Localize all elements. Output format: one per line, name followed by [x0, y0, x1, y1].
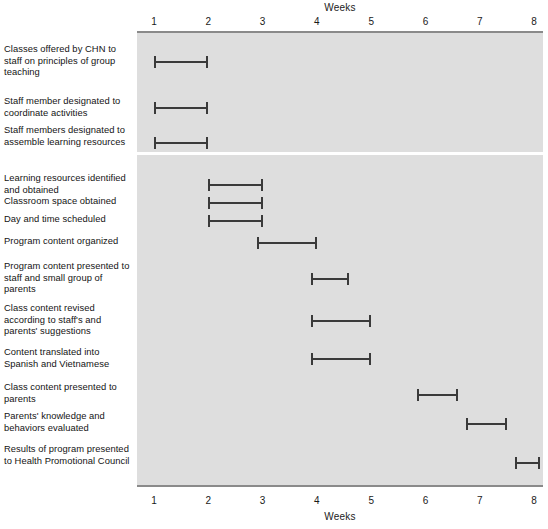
x-tick-label-7: 7: [470, 15, 490, 29]
gantt-bar-end-cap: [261, 179, 263, 191]
gantt-bar: [257, 242, 317, 244]
task-label: Program content presented to staff and s…: [4, 260, 135, 295]
gantt-bar-start-cap: [311, 315, 313, 327]
gantt-bar-start-cap: [515, 457, 517, 469]
gantt-bar: [311, 358, 371, 360]
x-tick-label-3: 3: [253, 494, 273, 508]
gantt-bar: [208, 184, 262, 186]
x-tick-label-1: 1: [144, 494, 164, 508]
top-axis-title: Weeks: [137, 2, 543, 13]
task-label: Staff members designated to assemble lea…: [4, 124, 135, 147]
x-tick-label-6: 6: [416, 494, 436, 508]
gantt-bar-end-cap: [206, 137, 208, 149]
gantt-bar-end-cap: [369, 353, 371, 365]
gantt-bar-start-cap: [154, 102, 156, 114]
gantt-bar: [208, 220, 262, 222]
gantt-bar-start-cap: [417, 389, 419, 401]
task-label: Parents' knowledge and behaviors evaluat…: [4, 410, 135, 433]
gantt-bar: [515, 462, 539, 464]
gantt-bar-start-cap: [257, 237, 259, 249]
x-tick-label-5: 5: [361, 15, 381, 29]
gantt-bar-start-cap: [466, 418, 468, 430]
bottom-axis-rule: [137, 485, 543, 487]
gantt-bar-start-cap: [154, 137, 156, 149]
gantt-bar-end-cap: [347, 273, 349, 285]
gantt-bar: [208, 202, 262, 204]
x-tick-label-4: 4: [307, 15, 327, 29]
gantt-bar-start-cap: [311, 273, 313, 285]
task-label: Learning resources identified and obtain…: [4, 172, 135, 195]
plot-panel-upper: [137, 33, 543, 152]
task-label: Class content presented to parents: [4, 381, 135, 404]
task-label: Content translated into Spanish and Viet…: [4, 346, 135, 369]
task-label: Day and time scheduled: [4, 213, 135, 225]
gantt-bar: [311, 278, 349, 280]
task-label: Program content organized: [4, 235, 135, 247]
gantt-bar: [154, 61, 208, 63]
gantt-bar-end-cap: [261, 215, 263, 227]
gantt-bar-end-cap: [505, 418, 507, 430]
task-label: Class content revised according to staff…: [4, 302, 135, 337]
x-tick-label-4: 4: [307, 494, 327, 508]
gantt-bar: [311, 320, 371, 322]
gantt-bar-start-cap: [311, 353, 313, 365]
task-label: Classes offered by CHN to staff on princ…: [4, 43, 135, 78]
gantt-bar-start-cap: [208, 179, 210, 191]
gantt-bar-start-cap: [208, 197, 210, 209]
gantt-bar-end-cap: [315, 237, 317, 249]
task-label-column: Classes offered by CHN to staff on princ…: [0, 0, 135, 529]
gantt-bar-start-cap: [208, 215, 210, 227]
gantt-bar-end-cap: [456, 389, 458, 401]
gantt-bar-end-cap: [538, 457, 540, 469]
x-tick-label-3: 3: [253, 15, 273, 29]
x-tick-label-2: 2: [198, 494, 218, 508]
x-tick-label-8: 8: [524, 494, 544, 508]
x-tick-label-8: 8: [524, 15, 544, 29]
gantt-bar-start-cap: [154, 56, 156, 68]
gantt-bar-end-cap: [206, 56, 208, 68]
bottom-axis-title: Weeks: [137, 511, 543, 522]
task-label: Classroom space obtained: [4, 195, 135, 207]
x-tick-label-1: 1: [144, 15, 164, 29]
gantt-bar: [466, 423, 507, 425]
task-label: Staff member designated to coordinate ac…: [4, 95, 135, 118]
bottom-tick-label-strip: 12345678: [0, 494, 548, 508]
gantt-chart: Weeks 12345678 Classes offered by CHN to…: [0, 0, 548, 529]
x-tick-label-5: 5: [361, 494, 381, 508]
x-tick-label-7: 7: [470, 494, 490, 508]
gantt-bar: [154, 142, 208, 144]
gantt-bar-end-cap: [369, 315, 371, 327]
task-label: Results of program presented to Health P…: [4, 443, 135, 466]
x-tick-label-2: 2: [198, 15, 218, 29]
gantt-bar: [417, 394, 458, 396]
x-tick-label-6: 6: [416, 15, 436, 29]
gantt-bar: [154, 107, 208, 109]
gantt-bar-end-cap: [206, 102, 208, 114]
gantt-bar-end-cap: [261, 197, 263, 209]
